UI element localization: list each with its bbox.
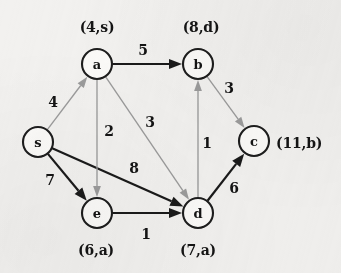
node-annotation-a: (4,s) [80,19,115,35]
node-annotation-b: (8,d) [183,19,220,35]
edge-weight-s-e: 7 [45,172,55,188]
node-annotation-d: (7,a) [180,242,216,258]
arrowhead-a-b [169,59,182,69]
edge-weight-a-e: 2 [104,123,114,139]
arrowhead-s-a [78,77,88,88]
edge-weight-b-c: 3 [224,80,234,96]
arrowhead-s-d [169,197,183,207]
node-annotation-e: (6,a) [78,242,114,258]
arrowhead-d-b [194,80,202,91]
edge-e-d [113,208,183,218]
edge-weight-e-d: 1 [141,226,151,242]
edge-weight-d-b: 1 [202,135,212,151]
node-label-d: d [193,206,202,221]
node-label-b: b [193,57,202,72]
edge-line-s-d [52,148,171,201]
node-b[interactable]: b [183,49,213,79]
edge-weight-s-d: 8 [129,160,139,176]
node-annotation-c: (11,b) [276,135,322,151]
node-d[interactable]: d [183,198,213,228]
arrowhead-b-c [235,117,245,128]
edge-weight-a-d: 3 [145,114,155,130]
graph-canvas: sabcde 4785233161 (4,s)(8,d)(11,b)(7,a)(… [0,0,341,273]
edges-layer [47,59,244,218]
edge-weight-a-b: 5 [138,42,148,58]
edge-a-b [113,59,183,69]
edge-a-e [93,80,101,198]
graph-figure: sabcde 4785233161 (4,s)(8,d)(11,b)(7,a)(… [0,0,341,273]
arrowhead-a-d [180,188,189,199]
edge-weight-s-a: 4 [48,94,58,110]
edge-weight-d-c: 6 [229,180,239,196]
edge-s-d [52,148,183,206]
node-label-s: s [34,135,41,150]
edge-line-a-d [106,77,183,191]
node-label-c: c [250,134,258,149]
node-a[interactable]: a [82,49,112,79]
edge-d-b [194,80,202,198]
node-label-a: a [93,57,102,72]
nodes-layer: sabcde [23,49,269,228]
arrowhead-e-d [169,208,182,218]
node-e[interactable]: e [82,198,112,228]
arrowhead-a-e [93,186,101,197]
node-s[interactable]: s [23,127,53,157]
node-c[interactable]: c [239,126,269,156]
node-label-e: e [93,206,101,221]
edge-a-d [106,77,189,200]
